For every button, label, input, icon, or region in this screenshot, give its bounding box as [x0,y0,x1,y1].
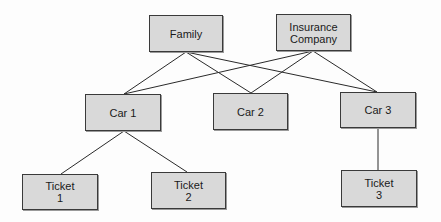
node-car-3: Car 3 [340,92,416,128]
node-label-line2: 3 [376,189,382,201]
node-label-line1: Ticket [174,179,203,191]
edge-insurance-car2 [251,51,313,93]
node-label: Family [170,28,202,40]
node-ticket-1: Ticket 1 [22,174,98,210]
node-label-line2: 2 [185,191,191,203]
node-car-1: Car 1 [85,94,161,131]
diagram-canvas: Family Insurance Company Car 1 Car 2 Car… [0,0,441,222]
node-car-2: Car 2 [213,93,288,130]
node-label-line2: Company [290,33,337,45]
node-label: Car 1 [110,107,137,119]
node-label-line1: Ticket [365,177,394,189]
node-label: Car 3 [365,104,392,116]
node-label: Car 2 [237,106,264,118]
edge-insurance-car3 [313,51,377,92]
node-label-line1: Ticket [46,180,75,192]
node-ticket-3: Ticket 3 [341,170,417,207]
edge-car1-ticket1 [61,131,124,174]
node-label-line1: Insurance [289,21,337,33]
node-insurance-company: Insurance Company [276,14,351,51]
node-ticket-2: Ticket 2 [151,172,226,209]
edge-family-car1 [124,52,186,94]
node-family: Family [149,15,223,52]
edge-car1-ticket2 [124,131,187,172]
node-label-line2: 1 [57,192,63,204]
